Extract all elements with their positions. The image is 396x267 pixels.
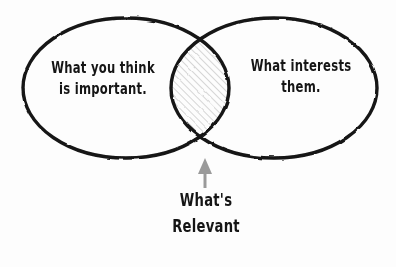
intersection-caption: What's Relevant	[149, 188, 263, 239]
venn-diagram-canvas: What you think is important. What intere…	[0, 0, 396, 267]
left-set-label: What you think is important.	[39, 58, 168, 99]
up-arrow-icon	[198, 158, 212, 188]
right-set-label: What interests them.	[238, 56, 364, 97]
